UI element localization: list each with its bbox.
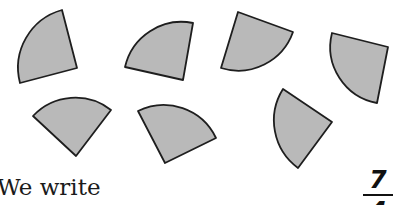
fraction-seven-fourths: 7 4 [363, 167, 393, 205]
quarter-wedge-6 [138, 105, 216, 163]
quarter-wedge-4 [330, 33, 388, 103]
fraction-numerator: 7 [363, 167, 393, 193]
quarter-wedge-1 [18, 10, 77, 83]
quarter-wedge-7 [274, 89, 332, 168]
quarter-wedge-2 [125, 22, 193, 80]
quarter-wedge-5 [33, 98, 111, 156]
sentence-text: We write [0, 176, 101, 199]
quarter-wedge-3 [221, 12, 293, 71]
fraction-denominator: 4 [363, 198, 393, 205]
